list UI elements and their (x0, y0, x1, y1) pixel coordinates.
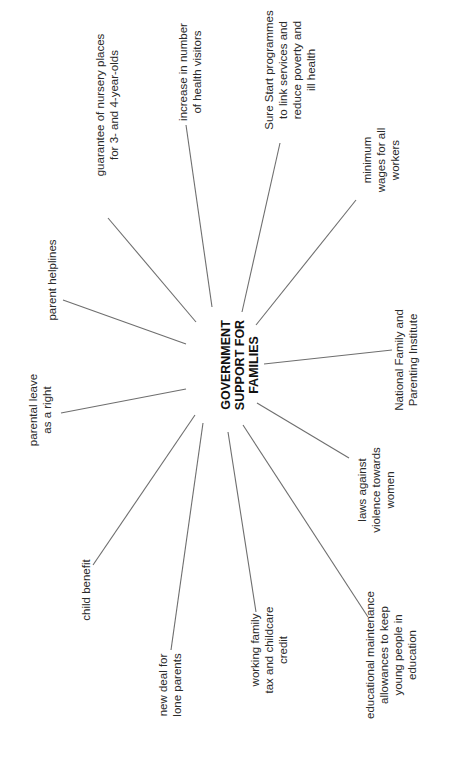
node-working-family-text: working family tax and childcare credit (248, 607, 290, 694)
connector-line-national-family (264, 350, 392, 364)
connector-line-new-deal (171, 423, 203, 650)
connector-line-guarantee (108, 218, 196, 322)
node-educational-text: educational maintenance allowances to ke… (363, 591, 419, 719)
central-title-text: GOVERNMENT SUPPORT FOR FAMILIES (219, 320, 261, 410)
connector-line-parent-helplines (63, 300, 186, 344)
node-new-deal-text: new deal for lone parents (156, 653, 184, 716)
connector-line-health-visitors (186, 125, 212, 307)
node-parent-helplines-text: parent helplines (45, 239, 59, 320)
mind-map-diagram: GOVERNMENT SUPPORT FOR FAMILIES guarante… (0, 0, 450, 764)
node-guarantee-text: guarantee of nursery places for 3- and 4… (93, 34, 121, 177)
connector-line-working-family (228, 432, 256, 612)
node-sure-start-text: Sure Start programmes to link services a… (262, 10, 318, 130)
connector-line-parental-leave (61, 389, 186, 413)
connector-line-sure-start (242, 143, 280, 312)
node-health-visitors-text: increase in number of health visitors (176, 23, 204, 121)
node-child-benefit-text: child benefit (79, 559, 93, 620)
connector-line-educational (243, 425, 368, 617)
connector-line-minimum-wages (256, 200, 356, 325)
node-minimum-wages-text: minimum wages for all workers (360, 128, 402, 193)
connector-line-laws-violence (257, 403, 349, 458)
node-laws-violence-text: laws against violence towards women (355, 447, 397, 533)
connector-line-child-benefit (93, 415, 195, 565)
node-parental-leave-text: parental leave as a right (26, 374, 54, 446)
node-national-family-text: National Family and Parenting Institute (392, 309, 420, 411)
